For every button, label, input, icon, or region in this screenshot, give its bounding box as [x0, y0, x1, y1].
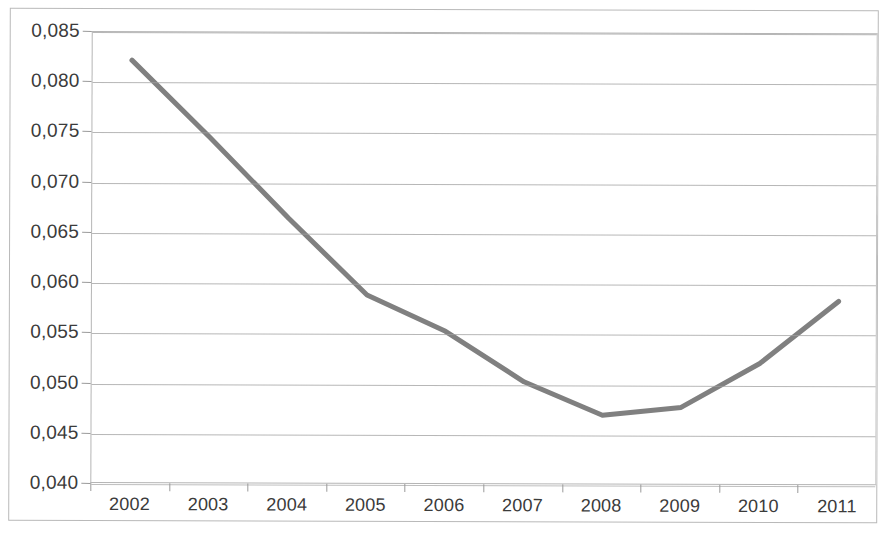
y-tick-mark: [83, 31, 92, 32]
y-tick-label: 0,050: [30, 371, 79, 393]
y-tick-mark: [82, 232, 91, 233]
y-tick-mark: [83, 81, 92, 82]
x-tick-label: 2005: [345, 495, 386, 516]
x-tick-mark: [90, 483, 91, 491]
line-series: [91, 32, 878, 486]
y-tick-label: 0,060: [30, 271, 79, 293]
plot-area: [91, 32, 876, 484]
x-tick-mark: [247, 483, 248, 491]
x-tick-label: 2008: [581, 495, 622, 516]
y-axis: 0,0850,0800,0750,0700,0650,0600,0550,050…: [18, 9, 86, 534]
y-tick-mark: [82, 182, 91, 183]
x-tick-label: 2011: [817, 496, 857, 517]
y-tick-label: 0,080: [31, 70, 80, 92]
x-tick-label: 2010: [738, 496, 779, 517]
x-tick-label: 2006: [423, 495, 464, 516]
x-tick-mark: [798, 485, 799, 493]
y-tick-label: 0,070: [31, 170, 80, 192]
y-tick-label: 0,085: [31, 20, 80, 42]
chart-outer-border: 0,0850,0800,0750,0700,0650,0600,0550,050…: [8, 8, 879, 524]
plot-frame: [90, 31, 877, 485]
y-tick-label: 0,075: [31, 120, 80, 142]
y-tick-mark: [82, 282, 91, 283]
x-tick-label: 2007: [502, 495, 543, 516]
x-tick-label: 2009: [659, 496, 700, 517]
x-tick-mark: [640, 485, 641, 493]
x-tick-label: 2003: [188, 494, 229, 515]
x-tick-mark: [326, 484, 327, 492]
x-tick-mark: [483, 484, 484, 492]
x-tick-mark: [169, 483, 170, 491]
y-tick-label: 0,065: [31, 221, 80, 243]
y-tick-mark: [82, 131, 91, 132]
x-tick-mark: [405, 484, 406, 492]
x-axis: 2002200320042005200620072008200920102011: [90, 490, 876, 532]
y-tick-mark: [82, 382, 91, 383]
x-tick-mark: [719, 485, 720, 493]
x-tick-label: 2002: [109, 494, 150, 515]
chart-figure: 0,0850,0800,0750,0700,0650,0600,0550,050…: [0, 0, 890, 534]
y-tick-mark: [82, 332, 91, 333]
x-tick-mark: [562, 484, 563, 492]
x-tick-label: 2004: [266, 494, 307, 515]
y-tick-label: 0,040: [30, 472, 79, 494]
series-line-path: [131, 60, 840, 416]
y-tick-label: 0,045: [30, 421, 79, 443]
y-tick-mark: [81, 433, 90, 434]
y-tick-label: 0,055: [30, 321, 79, 343]
y-tick-mark: [81, 483, 90, 484]
